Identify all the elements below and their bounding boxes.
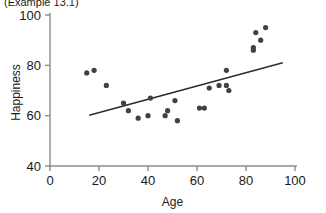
data-point xyxy=(163,113,168,118)
x-axis-tick-label: 60 xyxy=(190,173,204,188)
data-point xyxy=(121,100,126,105)
data-point xyxy=(148,95,153,100)
figure-caption: (Example 13.1) xyxy=(4,0,79,8)
y-axis-tick-label: 100 xyxy=(19,8,41,23)
data-point xyxy=(136,116,141,121)
data-point xyxy=(253,30,258,35)
data-point xyxy=(263,25,268,30)
data-point xyxy=(172,98,177,103)
data-point xyxy=(175,118,180,123)
data-point xyxy=(258,38,263,43)
trend-line xyxy=(89,63,283,115)
data-point xyxy=(226,88,231,93)
y-axis-tick-label: 40 xyxy=(27,159,41,174)
data-point xyxy=(251,45,256,50)
scatter-plot: 406080100020406080100AgeHappiness xyxy=(0,0,326,213)
data-point xyxy=(224,83,229,88)
data-point xyxy=(202,106,207,111)
x-axis-tick-label: 100 xyxy=(284,173,306,188)
x-axis-title: Age xyxy=(162,195,184,209)
data-point xyxy=(84,70,89,75)
y-axis-tick-label: 80 xyxy=(27,58,41,73)
data-point xyxy=(104,83,109,88)
data-point xyxy=(165,108,170,113)
data-point xyxy=(145,113,150,118)
data-point xyxy=(224,68,229,73)
data-point xyxy=(126,108,131,113)
data-point xyxy=(92,68,97,73)
x-axis-tick-label: 20 xyxy=(92,173,106,188)
x-axis-tick-label: 80 xyxy=(239,173,253,188)
y-axis-tick-label: 60 xyxy=(27,108,41,123)
data-point xyxy=(216,83,221,88)
data-point xyxy=(197,106,202,111)
data-point xyxy=(207,85,212,90)
y-axis-title: Happiness xyxy=(9,64,23,121)
chart-figure: (Example 13.1) 406080100020406080100AgeH… xyxy=(0,0,326,213)
x-axis-tick-label: 40 xyxy=(141,173,155,188)
x-axis-tick-label: 0 xyxy=(46,173,53,188)
